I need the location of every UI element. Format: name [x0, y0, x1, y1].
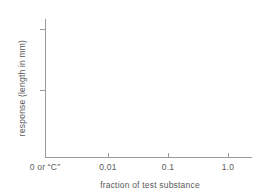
chart-svg: 0 or “C” 0.01 0.1 1.0 fraction of test s…: [0, 0, 268, 194]
plot-area: [46, 19, 253, 157]
x-tick-label-1-0: 1.0: [222, 162, 234, 172]
x-tick-label-origin: 0 or “C”: [30, 162, 60, 172]
x-axis-title: fraction of test substance: [100, 180, 200, 190]
x-tick-label-0-1: 0.1: [162, 162, 174, 172]
chart-figure: 0 or “C” 0.01 0.1 1.0 fraction of test s…: [0, 0, 268, 194]
x-tick-label-0-01: 0.01: [99, 162, 116, 172]
y-axis-title: response (length in mm): [17, 40, 27, 136]
